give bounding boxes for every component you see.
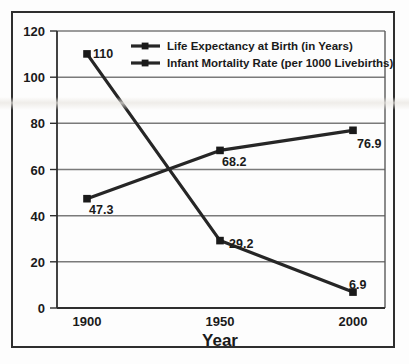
legend-marker-life-expectancy [142, 43, 149, 50]
infant-mortality-line [87, 54, 353, 292]
series-infant-mortality-rate [83, 50, 357, 296]
data-label-mortality-1900: 110 [93, 47, 113, 61]
chart-legend: Life Expectancy at Birth (in Years) Infa… [131, 40, 393, 69]
x-tick-label-2000: 2000 [339, 314, 368, 329]
infant-mortality-point-1950 [216, 237, 224, 245]
x-axis-title: Year [202, 331, 238, 350]
data-label-life-1900: 47.3 [89, 203, 113, 217]
data-label-life-2000: 76.9 [357, 137, 381, 151]
y-tick-label-0: 0 [38, 301, 45, 316]
x-tick-label-1950: 1950 [206, 314, 235, 329]
life-expectancy-point-1950 [216, 147, 224, 155]
data-label-life-1950: 68.2 [222, 155, 246, 169]
data-label-mortality-1950: 29.2 [229, 237, 253, 251]
y-tick-label-60: 60 [31, 163, 45, 178]
legend-marker-infant-mortality [142, 60, 149, 67]
legend-item-life-expectancy[interactable]: Life Expectancy at Birth (in Years) [131, 40, 353, 52]
legend-label-infant-mortality: Infant Mortality Rate (per 1000 Livebirt… [167, 57, 393, 69]
line-chart: 120 100 80 60 40 20 0 1900 1950 2000 Yea… [0, 0, 409, 364]
y-tick-label-20: 20 [31, 255, 45, 270]
x-tick-label-1900: 1900 [73, 314, 102, 329]
data-label-mortality-2000: 6.9 [349, 278, 366, 292]
legend-label-life-expectancy: Life Expectancy at Birth (in Years) [167, 40, 353, 52]
y-tick-label-100: 100 [23, 70, 45, 85]
y-tick-label-80: 80 [31, 116, 45, 131]
y-tick-label-40: 40 [31, 209, 45, 224]
life-expectancy-point-2000 [349, 127, 357, 135]
life-expectancy-line [87, 130, 353, 198]
infant-mortality-point-1900 [83, 50, 91, 58]
series-life-expectancy [83, 127, 357, 203]
y-tick-label-120: 120 [23, 24, 45, 39]
legend-item-infant-mortality[interactable]: Infant Mortality Rate (per 1000 Livebirt… [131, 57, 393, 69]
chart-figure: 120 100 80 60 40 20 0 1900 1950 2000 Yea… [0, 0, 409, 364]
life-expectancy-point-1900 [83, 195, 91, 203]
y-axis-ticks [50, 31, 57, 308]
